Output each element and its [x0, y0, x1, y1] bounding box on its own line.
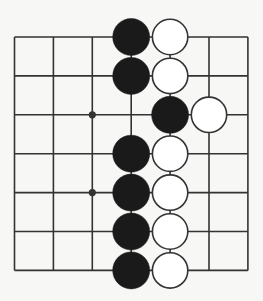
white-stone: [152, 214, 187, 249]
black-stone: [113, 19, 150, 56]
white-stone: [152, 175, 187, 210]
black-stone: [113, 252, 150, 289]
go-board: [0, 0, 263, 301]
black-stone: [152, 96, 189, 133]
star-point: [89, 189, 96, 196]
white-stone: [191, 97, 226, 132]
white-stone: [152, 136, 187, 171]
black-stone: [113, 57, 150, 94]
star-point: [89, 111, 96, 118]
white-stone: [152, 19, 187, 54]
black-stone: [113, 213, 150, 250]
white-stone: [152, 253, 187, 288]
white-stone: [152, 58, 187, 93]
black-stone: [113, 174, 150, 211]
black-stone: [113, 135, 150, 172]
